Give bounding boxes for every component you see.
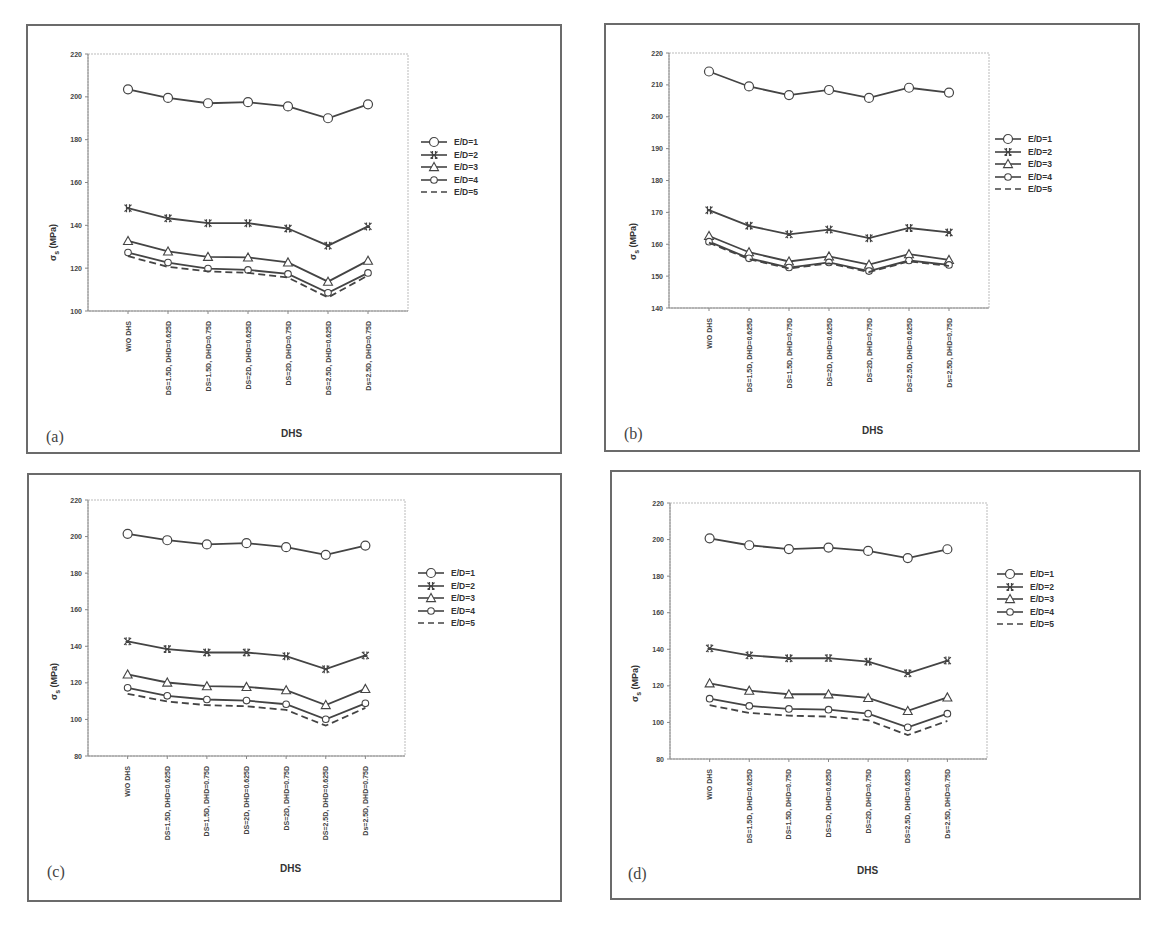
legend-item: E/D=1 bbox=[420, 136, 478, 149]
x-tick-label: DS=1.5D, DHD=0.625D bbox=[164, 766, 172, 840]
x-tick-label: DS=2.5D, DHD=0.625D bbox=[325, 321, 333, 395]
series-e-d-2 bbox=[706, 644, 951, 677]
legend-swatch-icon bbox=[417, 593, 445, 603]
circle-marker bbox=[325, 289, 332, 296]
series-e-d-1 bbox=[124, 85, 373, 123]
legend-item: E/D=3 bbox=[994, 158, 1052, 171]
circle-marker bbox=[785, 91, 794, 100]
line-chart-a: 100120140160180200220W/O DHSDS=1.5D, DHD… bbox=[28, 26, 564, 456]
triangle-marker bbox=[943, 693, 952, 701]
y-tick-label: 180 bbox=[652, 573, 664, 580]
legend-item: E/D=3 bbox=[417, 592, 475, 605]
triangle-marker bbox=[364, 256, 373, 264]
legend-item: E/D=5 bbox=[994, 183, 1052, 196]
legend-label: E/D=1 bbox=[454, 137, 478, 147]
x-tick-label: DS=1.5D, DHD=0.75D bbox=[786, 318, 794, 388]
circle-marker bbox=[705, 67, 714, 76]
x-tick-label: DS=2D, DHD=0.75D bbox=[865, 769, 873, 834]
x-tick-label: DS=1.5D, DHD=0.75D bbox=[203, 766, 211, 836]
circle-marker bbox=[242, 539, 251, 548]
series-e-d-4 bbox=[706, 695, 950, 730]
legend-swatch-icon bbox=[996, 619, 1024, 629]
circle-marker bbox=[746, 703, 753, 710]
series-e-d-2 bbox=[706, 206, 953, 242]
triangle-marker bbox=[705, 679, 714, 687]
triangle-marker bbox=[123, 670, 132, 678]
legend-swatch-icon bbox=[420, 175, 448, 185]
legend: E/D=1E/D=2E/D=3E/D=4E/D=5 bbox=[994, 133, 1052, 196]
x-axis-label: DHS bbox=[862, 425, 883, 436]
legend-label: E/D=2 bbox=[1030, 582, 1054, 592]
circle-marker bbox=[123, 529, 132, 538]
line-chart-c: 80100120140160180200220W/O DHSDS=1.5D, D… bbox=[29, 475, 564, 904]
legend-item: E/D=5 bbox=[417, 617, 475, 630]
legend-item: E/D=3 bbox=[996, 593, 1054, 606]
triangle-marker bbox=[361, 684, 370, 692]
y-axis-label: σs (MPa) bbox=[49, 663, 61, 700]
circle-marker bbox=[825, 85, 834, 94]
series-e-d-1 bbox=[123, 529, 370, 559]
x-tick-label: DS=2D, DHD=0.625D bbox=[243, 766, 251, 834]
circle-marker bbox=[165, 259, 172, 266]
y-tick-label: 80 bbox=[656, 756, 664, 763]
y-tick-label: 200 bbox=[70, 93, 82, 100]
legend-item: E/D=2 bbox=[994, 146, 1052, 159]
x-tick-label: Ds=2.5D, DHD=0.75D bbox=[944, 769, 952, 839]
y-tick-label: 220 bbox=[70, 51, 82, 58]
y-tick-label: 100 bbox=[70, 308, 82, 315]
x-tick-label: Ds=2.5D, DHD=0.75D bbox=[365, 321, 373, 391]
legend-swatch-icon bbox=[996, 582, 1024, 592]
circle-marker bbox=[1004, 135, 1013, 144]
x-tick-label: W/O DHS bbox=[706, 318, 713, 349]
x-tick-label: W/O DHS bbox=[124, 766, 131, 797]
circle-marker bbox=[865, 710, 872, 717]
circle-marker bbox=[903, 554, 912, 563]
x-tick-label: DS=2D, DHD=0.625D bbox=[826, 318, 834, 386]
x-axis-label: DHS bbox=[281, 428, 302, 439]
legend-swatch-icon bbox=[996, 594, 1024, 604]
circle-marker bbox=[904, 724, 911, 731]
circle-marker bbox=[243, 697, 250, 704]
circle-marker bbox=[283, 701, 290, 708]
legend-label: E/D=3 bbox=[454, 162, 478, 172]
series-e-d-1 bbox=[705, 67, 954, 102]
y-tick-label: 160 bbox=[70, 179, 82, 186]
circle-marker bbox=[282, 543, 291, 552]
y-tick-label: 160 bbox=[70, 606, 82, 613]
circle-marker bbox=[365, 270, 372, 277]
circle-marker bbox=[284, 102, 293, 111]
legend-label: E/D=1 bbox=[1030, 569, 1054, 579]
x-tick-label: DS=1.5D, DHD=0.625D bbox=[746, 769, 754, 843]
chart-panel-c: 80100120140160180200220W/O DHSDS=1.5D, D… bbox=[27, 473, 562, 902]
legend-label: E/D=4 bbox=[451, 606, 475, 616]
triangle-marker bbox=[324, 277, 333, 285]
legend-item: E/D=5 bbox=[420, 186, 478, 199]
circle-marker bbox=[427, 569, 436, 578]
y-axis-label: σs (MPa) bbox=[48, 224, 60, 261]
y-tick-label: 200 bbox=[70, 533, 82, 540]
plot-area bbox=[670, 503, 987, 759]
legend-swatch-icon bbox=[996, 569, 1024, 579]
x-tick-label: DS=2D, DHD=0.625D bbox=[825, 769, 833, 837]
x-tick-label: Ds=2.5D, DHD=0.75D bbox=[362, 766, 370, 836]
legend-label: E/D=2 bbox=[1028, 147, 1052, 157]
circle-marker bbox=[322, 716, 329, 723]
chart-panel-d: 80100120140160180200220W/O DHSDS=1.5D, D… bbox=[610, 470, 1141, 900]
circle-marker bbox=[1006, 570, 1015, 579]
legend-swatch-icon bbox=[420, 162, 448, 172]
series-line bbox=[709, 210, 949, 238]
y-tick-label: 180 bbox=[651, 177, 663, 184]
legend-swatch-icon bbox=[417, 568, 445, 578]
legend-swatch-icon bbox=[420, 187, 448, 197]
y-tick-label: 170 bbox=[651, 209, 663, 216]
circle-marker bbox=[825, 706, 832, 713]
y-tick-label: 160 bbox=[651, 241, 663, 248]
series-e-d-1 bbox=[705, 534, 952, 563]
legend-swatch-icon bbox=[994, 172, 1022, 182]
legend-item: E/D=4 bbox=[417, 605, 475, 618]
y-tick-label: 80 bbox=[74, 753, 82, 760]
series-line bbox=[128, 641, 366, 669]
legend-label: E/D=5 bbox=[451, 618, 475, 628]
y-tick-label: 100 bbox=[652, 719, 664, 726]
legend-item: E/D=2 bbox=[417, 580, 475, 593]
